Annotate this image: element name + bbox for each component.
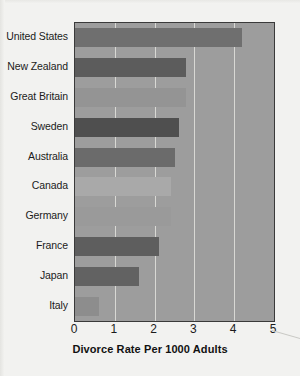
x-tick-2: 2 (142, 322, 166, 336)
bar-row (75, 297, 274, 316)
category-label-great-britain: Great Britain (0, 90, 68, 102)
bar-france (75, 237, 159, 256)
category-label-sweden: Sweden (0, 120, 68, 132)
bar-row (75, 28, 274, 47)
bar-row (75, 58, 274, 77)
bar-row (75, 207, 274, 226)
bar-sweden (75, 118, 179, 137)
bar-row (75, 267, 274, 286)
x-tick-0: 0 (62, 322, 86, 336)
bar-row (75, 237, 274, 256)
bar-italy (75, 297, 99, 316)
bar-japan (75, 267, 139, 286)
bar-germany (75, 207, 171, 226)
bar-canada (75, 177, 171, 196)
x-axis-title: Divorce Rate Per 1000 Adults (0, 343, 300, 355)
divorce-rate-bar-chart: United StatesNew ZealandGreat BritainSwe… (0, 0, 300, 376)
plot-area (74, 22, 275, 322)
category-label-united-states: United States (0, 30, 68, 42)
category-label-japan: Japan (0, 269, 68, 281)
page-edge-top (0, 0, 300, 4)
category-label-germany: Germany (0, 209, 68, 221)
category-label-italy: Italy (0, 299, 68, 311)
bar-row (75, 148, 274, 167)
bar-row (75, 88, 274, 107)
bar-new-zealand (75, 58, 186, 77)
bar-row (75, 118, 274, 137)
bar-great-britain (75, 88, 186, 107)
category-label-canada: Canada (0, 179, 68, 191)
x-tick-3: 3 (181, 322, 205, 336)
bar-australia (75, 148, 175, 167)
x-tick-1: 1 (102, 322, 126, 336)
bar-row (75, 177, 274, 196)
bar-united-states (75, 28, 242, 47)
category-label-australia: Australia (0, 150, 68, 162)
category-label-new-zealand: New Zealand (0, 60, 68, 72)
category-label-france: France (0, 239, 68, 251)
x-tick-4: 4 (221, 322, 245, 336)
